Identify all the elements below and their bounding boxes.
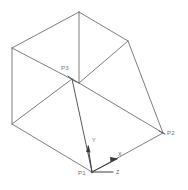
label-axis-z: Z [116,169,120,175]
edge-p3-to-p1 [72,79,92,172]
coordinate-triad [86,145,118,173]
drawing-canvas: P3 P2 P1 X Y Z [0,0,188,190]
label-p2: P2 [167,129,175,136]
edge-left-top-to-center [12,48,79,83]
edge-left-bottom-to-p1 [12,124,92,172]
edge-right-top-to-center [79,41,128,83]
label-p1: P1 [78,169,86,176]
edge-left-bottom-to-p3 [12,79,72,124]
wireframe-svg: P3 P2 P1 X Y Z [0,0,188,190]
edge-apex-to-right-top [79,12,128,41]
edge-apex-to-left-top [12,12,79,48]
label-axis-y: Y [92,137,96,143]
edge-right-top-to-p2 [128,41,163,133]
label-axis-x: X [118,151,122,157]
x-axis-line [92,159,117,172]
origin-dot [91,171,94,174]
edge-center-to-p2 [79,83,163,133]
label-p3: P3 [61,64,69,71]
